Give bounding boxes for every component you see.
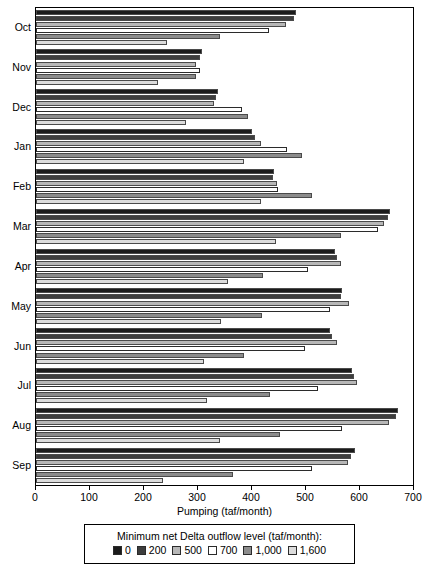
legend-items: 02005007001,0001,600 [85, 545, 354, 556]
bar [36, 135, 255, 140]
bar [36, 307, 330, 312]
bar-row [36, 472, 414, 477]
bar-row [36, 438, 414, 443]
bar-row [36, 16, 414, 21]
bar [36, 432, 280, 437]
legend-label: 1,000 [255, 545, 281, 556]
bar [36, 319, 221, 324]
bar [36, 414, 396, 419]
month-group [36, 249, 414, 286]
legend: Minimum net Delta outflow level (taf/mon… [84, 524, 355, 564]
bar-row [36, 153, 414, 158]
bar [36, 438, 220, 443]
x-axis-tick-label: 400 [231, 491, 271, 503]
bar [36, 28, 269, 33]
pumping-bar-chart: OctNovDecJanFebMarAprMayJunJulAugSep 010… [0, 0, 438, 576]
y-axis-label-jan: Jan [0, 141, 31, 152]
bar-row [36, 414, 414, 419]
bar-row [36, 353, 414, 358]
bar-row [36, 307, 414, 312]
legend-title: Minimum net Delta outflow level (taf/mon… [85, 529, 354, 543]
bar [36, 181, 277, 186]
bar-row [36, 129, 414, 134]
x-axis-tick-label: 200 [123, 491, 163, 503]
bar-row [36, 313, 414, 318]
bar-row [36, 227, 414, 232]
bar [36, 472, 233, 477]
bar-row [36, 193, 414, 198]
bar [36, 328, 330, 333]
bar [36, 313, 262, 318]
bar [36, 22, 286, 27]
bar-row [36, 233, 414, 238]
bar [36, 301, 349, 306]
bar [36, 107, 242, 112]
bar-row [36, 22, 414, 27]
bar [36, 353, 244, 358]
bar-row [36, 62, 414, 67]
bar [36, 267, 308, 272]
bar [36, 273, 263, 278]
bar [36, 374, 354, 379]
bar [36, 460, 348, 465]
x-axis-tick-label: 500 [285, 491, 325, 503]
bar-row [36, 426, 414, 431]
legend-label: 0 [125, 545, 131, 556]
bar-row [36, 40, 414, 45]
bar [36, 227, 378, 232]
month-group [36, 49, 414, 86]
bar-row [36, 466, 414, 471]
bar-row [36, 273, 414, 278]
bar [36, 368, 352, 373]
x-axis-tick [89, 486, 90, 490]
y-axis-label-mar: Mar [0, 221, 31, 232]
bar [36, 55, 200, 60]
bar [36, 334, 332, 339]
legend-label: 200 [149, 545, 167, 556]
bar-row [36, 319, 414, 324]
bar [36, 95, 216, 100]
bar [36, 255, 337, 260]
bar [36, 120, 186, 125]
bar [36, 448, 355, 453]
month-group [36, 368, 414, 405]
month-group [36, 129, 414, 166]
bar-row [36, 301, 414, 306]
bar-row [36, 249, 414, 254]
x-axis-tick [197, 486, 198, 490]
bar [36, 478, 163, 483]
month-group [36, 209, 414, 246]
x-axis-title: Pumping (taf/month) [35, 505, 414, 517]
y-axis-label-oct: Oct [0, 22, 31, 33]
bar [36, 359, 204, 364]
legend-item: 1,000 [243, 545, 281, 556]
bar-row [36, 288, 414, 293]
bar-row [36, 386, 414, 391]
bar [36, 62, 196, 67]
legend-item: 0 [113, 545, 131, 556]
y-axis-label-may: May [0, 301, 31, 312]
bar-row [36, 454, 414, 459]
legend-swatch-icon [208, 546, 217, 555]
bar-row [36, 55, 414, 60]
x-axis-tick [413, 486, 414, 490]
month-group [36, 288, 414, 325]
bar [36, 16, 294, 21]
bar-row [36, 159, 414, 164]
bar-row [36, 181, 414, 186]
month-group [36, 408, 414, 445]
bar-row [36, 374, 414, 379]
bar [36, 193, 312, 198]
month-group [36, 89, 414, 126]
bar-row [36, 34, 414, 39]
bar-row [36, 147, 414, 152]
y-axis-label-feb: Feb [0, 181, 31, 192]
bar [36, 261, 341, 266]
bar-row [36, 135, 414, 140]
bar [36, 249, 335, 254]
bar [36, 40, 167, 45]
bar-row [36, 187, 414, 192]
bar [36, 175, 273, 180]
bar [36, 153, 302, 158]
bar [36, 169, 274, 174]
